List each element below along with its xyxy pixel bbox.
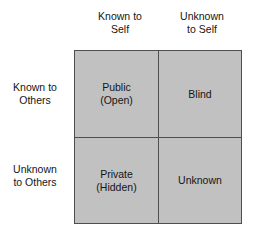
- quadrant-blind-label: Blind: [188, 88, 211, 101]
- johari-window-diagram: Known to Self Unknown to Self Known to O…: [0, 0, 262, 240]
- quadrant-private-hidden: Private (Hidden): [75, 138, 158, 223]
- quadrant-private-hidden-label: Private (Hidden): [96, 168, 136, 194]
- quadrant-unknown: Unknown: [159, 138, 241, 223]
- johari-matrix: Public (Open) Blind Private (Hidden) Unk…: [74, 50, 242, 224]
- row-header-unknown-to-others: Unknown to Others: [0, 163, 70, 189]
- column-header-unknown-to-self: Unknown to Self: [160, 10, 244, 36]
- quadrant-public-open-label: Public (Open): [100, 81, 133, 107]
- quadrant-public-open: Public (Open): [75, 51, 158, 137]
- quadrant-blind: Blind: [159, 51, 241, 137]
- quadrant-unknown-label: Unknown: [178, 174, 222, 187]
- row-header-known-to-others: Known to Others: [0, 81, 70, 107]
- column-header-known-to-self: Known to Self: [78, 10, 162, 36]
- horizontal-divider-line: [75, 137, 241, 138]
